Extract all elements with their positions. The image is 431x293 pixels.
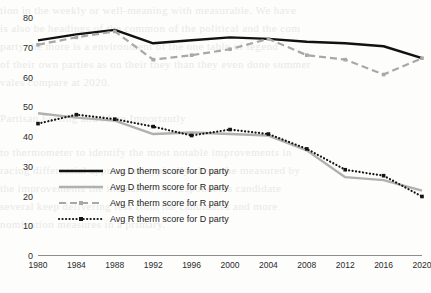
data-point-marker — [420, 56, 424, 60]
legend-label: Avg D therm score for R party — [110, 182, 229, 192]
x-axis: 1980198419881992199620002004200820122016… — [38, 260, 422, 274]
data-point-marker — [151, 125, 155, 129]
x-tick-label: 1980 — [29, 260, 48, 270]
x-axis-line — [38, 255, 422, 256]
legend-label: Avg R therm score for R party — [110, 198, 229, 208]
data-point-marker — [36, 122, 40, 126]
legend-swatch — [58, 213, 104, 225]
x-tick-label: 1988 — [105, 260, 124, 270]
x-tick-label: 1984 — [67, 260, 86, 270]
data-point-marker — [190, 134, 194, 138]
data-point-marker — [113, 117, 117, 121]
legend-entry: Avg D therm score for D party — [58, 163, 229, 179]
x-tick-label: 2012 — [336, 260, 355, 270]
x-tick-label: 2016 — [374, 260, 393, 270]
data-point-marker — [151, 58, 155, 62]
x-tick-label: 2008 — [297, 260, 316, 270]
y-tick-label: 80 — [23, 13, 33, 23]
data-point-marker — [75, 113, 79, 117]
x-tick-label: 2004 — [259, 260, 278, 270]
data-point-marker — [228, 47, 232, 51]
data-point-marker — [420, 195, 424, 199]
legend-swatch — [58, 197, 104, 209]
data-point-marker — [343, 58, 347, 62]
legend-label: Avg D therm score for D party — [110, 166, 229, 176]
data-point-marker — [228, 128, 232, 132]
data-point-marker — [382, 174, 386, 178]
y-tick-label: 10 — [23, 221, 33, 231]
legend-entry: Avg R therm score for D party — [58, 211, 229, 227]
data-point-marker — [343, 168, 347, 172]
data-point-marker — [267, 37, 271, 41]
y-tick-label: 40 — [23, 132, 33, 142]
chart-legend: Avg D therm score for D partyAvg D therm… — [58, 163, 229, 227]
x-tick-label: 1996 — [182, 260, 201, 270]
legend-entry: Avg D therm score for R party — [58, 179, 229, 195]
data-point-marker — [75, 36, 79, 40]
legend-swatch — [58, 181, 104, 193]
x-tick-label: 2000 — [221, 260, 240, 270]
y-tick-label: 50 — [23, 102, 33, 112]
legend-label: Avg R therm score for D party — [110, 214, 229, 224]
data-point-marker — [190, 53, 194, 57]
data-point-marker — [382, 73, 386, 77]
x-tick-label: 1992 — [144, 260, 163, 270]
y-tick-label: 60 — [23, 73, 33, 83]
data-point-marker — [113, 30, 117, 34]
data-point-marker — [36, 43, 40, 47]
legend-entry: Avg R therm score for R party — [58, 195, 229, 211]
data-point-marker — [267, 132, 271, 136]
y-tick-label: 20 — [23, 192, 33, 202]
data-point-marker — [305, 53, 309, 57]
legend-swatch — [58, 165, 104, 177]
data-point-marker — [305, 147, 309, 151]
y-tick-label: 30 — [23, 162, 33, 172]
x-tick-label: 2020 — [413, 260, 431, 270]
y-tick-label: 70 — [23, 43, 33, 53]
